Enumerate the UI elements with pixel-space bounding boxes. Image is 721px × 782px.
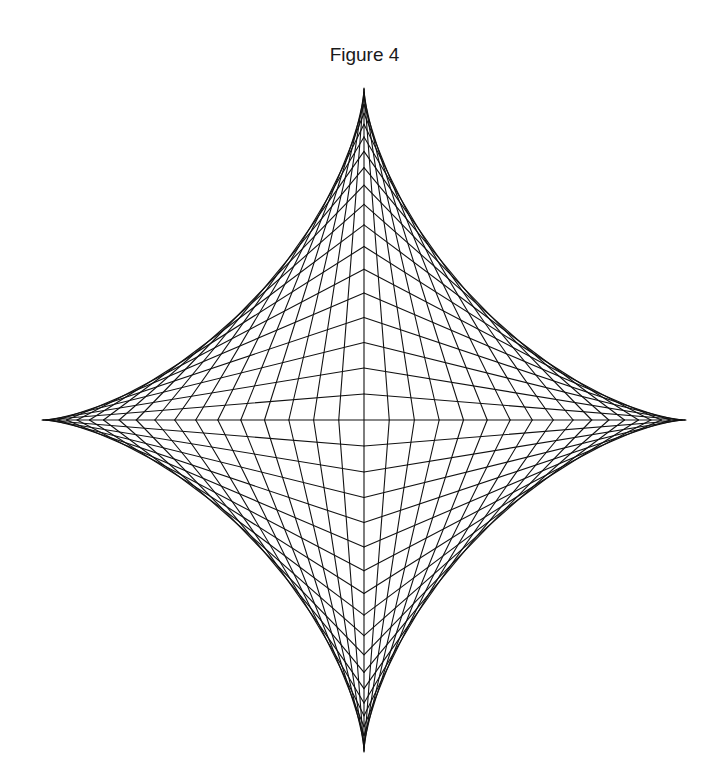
string-segment — [364, 185, 592, 420]
string-segment — [364, 420, 661, 547]
string-segment — [175, 420, 364, 689]
string-segment — [364, 137, 532, 420]
string-segment — [364, 420, 532, 703]
string-segment — [241, 113, 364, 420]
string-segment — [67, 420, 364, 547]
string-segment — [241, 420, 364, 727]
string-segment — [364, 420, 553, 689]
string-segment — [196, 420, 364, 703]
string-segment — [364, 293, 661, 420]
string-segment — [265, 104, 365, 420]
string-segment — [51, 343, 364, 421]
string-segment — [265, 420, 365, 736]
string-segment — [364, 420, 487, 727]
string-segment — [314, 420, 364, 748]
string-segment — [364, 420, 682, 472]
string-segment — [364, 368, 682, 420]
string-segment — [364, 151, 553, 420]
string-segment — [289, 97, 364, 420]
string-segment — [196, 137, 364, 420]
string-segment — [175, 151, 364, 420]
string-segment — [364, 104, 464, 420]
string-segment — [364, 420, 625, 615]
string-segment — [364, 420, 464, 736]
string-segment — [364, 420, 592, 655]
axis-lines — [42, 88, 686, 752]
string-segment — [364, 113, 487, 420]
string-segment — [364, 420, 414, 748]
string-segment — [46, 420, 364, 472]
string-segment — [364, 420, 439, 743]
string-segment — [289, 420, 364, 743]
string-segment — [314, 92, 364, 420]
string-segment — [104, 420, 365, 615]
astroid-string-art — [0, 0, 721, 782]
string-segment — [51, 420, 364, 498]
string-segment — [136, 185, 364, 420]
string-segment — [104, 225, 365, 420]
string-segment — [364, 343, 677, 421]
string-segment — [364, 97, 439, 420]
string-segment — [136, 420, 364, 655]
string-segment — [364, 420, 677, 498]
string-segment — [364, 225, 625, 420]
string-segment — [67, 293, 364, 420]
string-segment — [46, 368, 364, 420]
string-segment — [364, 92, 414, 420]
